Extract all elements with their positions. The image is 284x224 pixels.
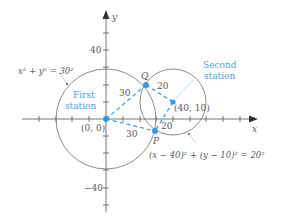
origin-point [103,116,109,122]
x-axis-arrow-icon [249,116,258,123]
x-axis-label: x [252,124,257,134]
first-equation-leader-dot [66,83,68,85]
point-P [152,128,158,134]
first-circle-equation: x² + y² = 30² [18,66,74,76]
label-origin: (0, 0) [81,123,105,133]
second-equation-leader-dot [188,133,190,135]
distance-label-origin-Q: 30 [119,88,131,98]
y-axis-label: y [111,12,118,22]
label-Q: Q [141,71,149,81]
distance-label-second-P: 20 [161,121,173,131]
second-station-leader [176,80,193,98]
point-Q [143,82,149,88]
y-axis-arrow-icon [103,10,110,19]
second-station-label-line1: Second [203,60,237,70]
y-tick-label-40: 40 [90,45,102,55]
second-station-label-line2: station [204,71,236,81]
label-P: P [152,136,160,146]
intersecting-circles-diagram: y x 40 −40 Q P (0, 0) (40, 10) 30 30 20 … [0,0,284,224]
distance-label-origin-P: 30 [126,129,138,139]
y-tick-label-neg40: −40 [84,183,103,193]
label-second-center: (40, 10) [174,103,210,113]
second-equation-leader [189,134,196,143]
distance-label-second-Q: 20 [157,81,169,91]
first-station-label-line1: First [73,90,95,100]
second-circle-equation: (x − 40)² + (y − 10)² = 20² [149,150,265,160]
first-station-label-line2: station [65,101,97,111]
